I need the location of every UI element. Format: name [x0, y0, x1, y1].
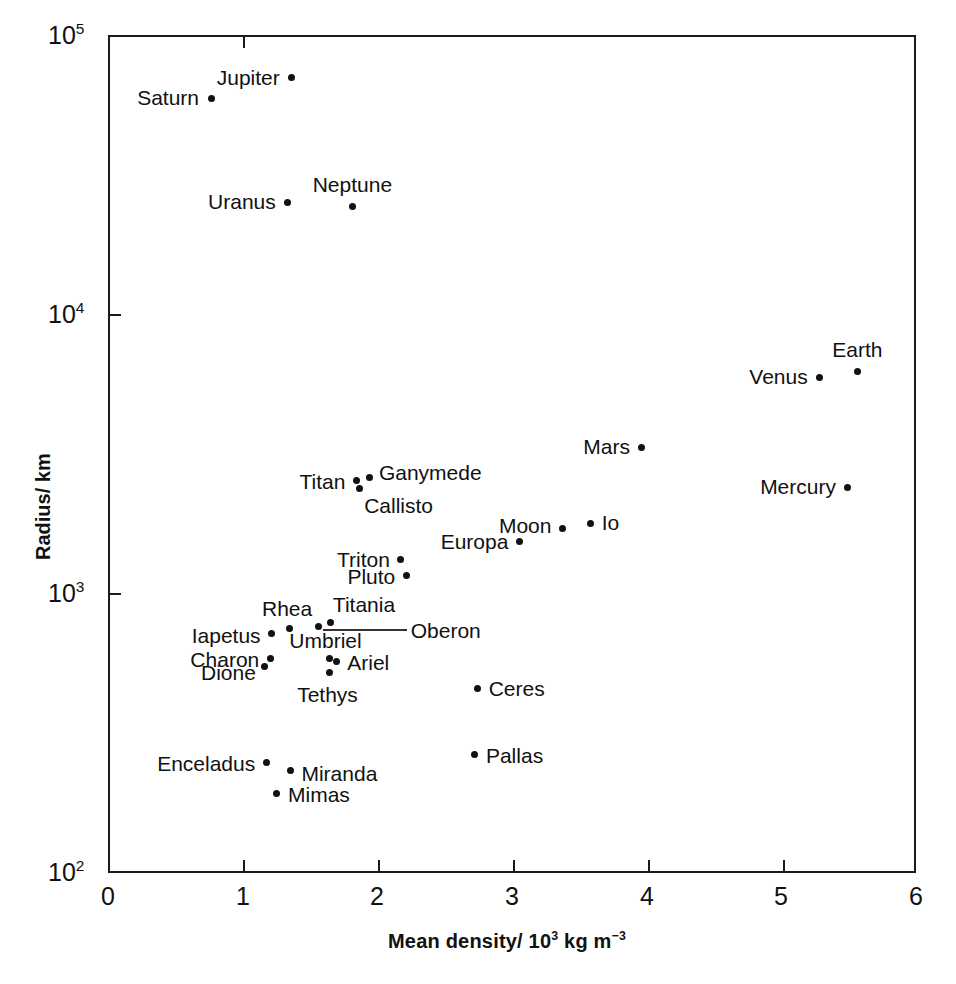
y-axis-title: Radius/ km	[32, 453, 55, 560]
data-point	[263, 759, 270, 766]
data-point	[366, 474, 373, 481]
data-point-label: Jupiter	[217, 66, 280, 87]
x-tick-label-6: 6	[909, 884, 923, 909]
data-point	[326, 655, 333, 662]
data-point-label: Europa	[441, 531, 509, 552]
data-point-label: Earth	[832, 339, 882, 360]
data-point	[844, 484, 851, 491]
data-point-label: Enceladus	[157, 752, 255, 773]
data-point-label: Titania	[333, 593, 395, 614]
data-point-label: Umbriel	[289, 629, 361, 650]
x-axis-title-unit-exp: −3	[612, 929, 627, 943]
data-point	[208, 95, 215, 102]
data-point-label: Saturn	[137, 87, 199, 108]
data-point-label: Pallas	[486, 744, 543, 765]
data-point	[816, 374, 823, 381]
data-point-label: Mimas	[288, 784, 350, 805]
data-point-label: Pluto	[347, 565, 395, 586]
data-point-label: Mercury	[760, 476, 836, 497]
data-points-layer: JupiterSaturnUranusNeptuneEarthVenusMars…	[110, 37, 914, 871]
data-point-label: Dione	[201, 662, 256, 683]
data-point	[559, 525, 566, 532]
data-point-label: Ganymede	[379, 461, 482, 482]
x-tick-label-0: 0	[101, 884, 115, 909]
data-point-label: Rhea	[262, 598, 312, 619]
plot-area: JupiterSaturnUranusNeptuneEarthVenusMars…	[108, 35, 916, 873]
data-point	[333, 658, 340, 665]
x-tick-label-5: 5	[774, 884, 788, 909]
data-point	[587, 520, 594, 527]
data-point-label: Miranda	[301, 762, 377, 783]
data-point-label: Oberon	[411, 619, 481, 640]
data-point-label: Tethys	[297, 683, 358, 704]
x-axis-title-main: Mean density/ 10	[388, 930, 551, 952]
data-point	[349, 203, 356, 210]
data-point	[397, 556, 404, 563]
y-tick-label-1e3: 103	[48, 581, 84, 606]
data-point	[471, 751, 478, 758]
data-point-label: Iapetus	[192, 624, 261, 645]
x-tick-label-1: 1	[236, 884, 250, 909]
data-point-label: Mars	[583, 436, 630, 457]
y-tick-label-1e4: 104	[48, 302, 84, 327]
data-point	[474, 685, 481, 692]
x-tick-label-3: 3	[505, 884, 519, 909]
data-point	[268, 630, 275, 637]
x-tick-label-2: 2	[370, 884, 384, 909]
data-point-label: Uranus	[208, 191, 276, 212]
data-point-label: Io	[602, 512, 620, 533]
chart-page: Radius/ km 105 104 103 102 JupiterSaturn…	[0, 0, 956, 984]
data-point-label: Venus	[749, 366, 807, 387]
data-point	[287, 767, 294, 774]
data-point	[403, 572, 410, 579]
data-point	[516, 538, 523, 545]
data-point-label: Callisto	[364, 494, 433, 515]
x-tick-label-4: 4	[640, 884, 654, 909]
data-point	[854, 368, 861, 375]
data-point	[284, 199, 291, 206]
data-point-label: Neptune	[313, 174, 392, 195]
y-tick-label-1e5: 105	[48, 23, 84, 48]
data-point	[638, 444, 645, 451]
data-point	[353, 477, 360, 484]
x-axis-title: Mean density/ 103 kg m−3	[388, 930, 626, 953]
data-point	[326, 669, 333, 676]
y-tick-label-1e2: 102	[48, 860, 84, 885]
data-point	[273, 790, 280, 797]
data-point-label: Ariel	[347, 651, 389, 672]
data-point	[327, 619, 334, 626]
data-point-label: Ceres	[489, 678, 545, 699]
x-axis-title-unit: kg m	[558, 930, 611, 952]
data-point	[261, 663, 268, 670]
data-point	[288, 74, 295, 81]
data-point-label: Titan	[300, 470, 346, 491]
data-point	[267, 655, 274, 662]
data-point	[356, 485, 363, 492]
